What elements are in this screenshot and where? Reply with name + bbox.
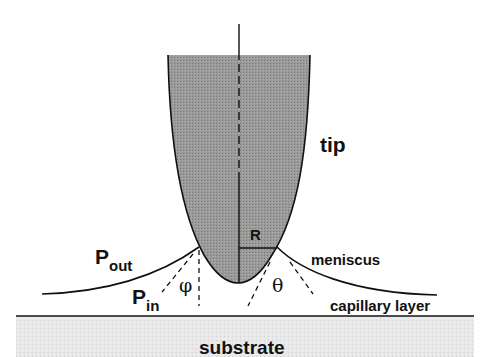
afm-tip-meniscus-diagram: tip R Pout Pin φ θ meniscus capillary la… <box>0 0 488 357</box>
p-out-main: P <box>95 245 109 268</box>
p-in-subscript: in <box>146 297 159 314</box>
theta-meniscus-tangent-dashed-line <box>290 262 313 294</box>
substrate-label: substrate <box>199 337 285 357</box>
phi-label: φ <box>179 274 192 296</box>
theta-label: θ <box>272 274 283 296</box>
p-out-label: Pout <box>95 245 132 274</box>
p-in-main: P <box>132 285 146 308</box>
p-in-label: Pin <box>132 285 159 314</box>
tip-label: tip <box>320 133 346 156</box>
capillary-layer-label: capillary layer <box>330 297 430 314</box>
meniscus-label: meniscus <box>311 251 380 268</box>
p-out-subscript: out <box>109 257 132 274</box>
radius-label: R <box>250 226 261 243</box>
